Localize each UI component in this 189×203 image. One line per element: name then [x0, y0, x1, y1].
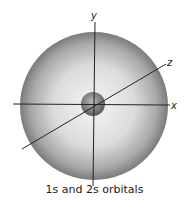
- x-axis-label: x: [170, 100, 177, 111]
- orbital-diagram: y x z: [0, 0, 189, 203]
- y-axis-label: y: [90, 10, 98, 21]
- diagram-caption: 1s and 2s orbitals: [0, 183, 189, 196]
- z-axis-label: z: [166, 57, 173, 68]
